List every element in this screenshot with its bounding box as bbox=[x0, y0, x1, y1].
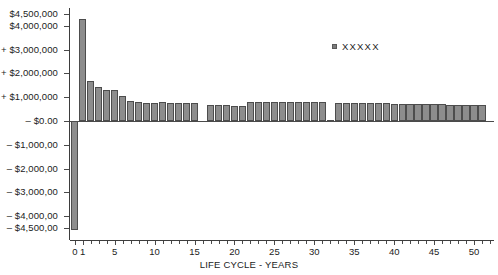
x-axis-tick-label: 25 bbox=[269, 246, 280, 257]
bar bbox=[279, 102, 286, 121]
bar bbox=[375, 103, 382, 121]
x-axis-tick-label: 15 bbox=[189, 246, 200, 257]
x-axis-tick-label: 5 bbox=[112, 246, 117, 257]
bar bbox=[215, 105, 222, 121]
bar bbox=[367, 103, 374, 121]
x-axis-tick-mark bbox=[171, 241, 172, 244]
bar bbox=[359, 103, 366, 121]
bar bbox=[71, 121, 78, 230]
x-axis-tick-label: 0 bbox=[72, 246, 77, 257]
x-axis-tick-mark bbox=[99, 241, 100, 244]
bar bbox=[343, 103, 350, 121]
bar bbox=[239, 106, 246, 121]
bar bbox=[287, 102, 294, 121]
bar bbox=[311, 102, 318, 121]
x-axis-tick-mark bbox=[362, 241, 363, 244]
zero-baseline bbox=[70, 121, 494, 122]
bar bbox=[462, 105, 469, 121]
x-axis-tick-mark bbox=[242, 241, 243, 244]
y-axis-tick-label: – $4,500,00 bbox=[7, 223, 58, 233]
x-axis-tick-mark bbox=[458, 241, 459, 244]
bar bbox=[111, 90, 118, 121]
x-axis-tick-mark bbox=[115, 241, 116, 245]
x-axis-tick-mark bbox=[426, 241, 427, 244]
x-axis-tick-mark bbox=[354, 241, 355, 245]
x-axis-tick-mark bbox=[370, 241, 371, 244]
x-axis-ticks bbox=[70, 241, 494, 245]
bar bbox=[95, 87, 102, 122]
x-axis-tick-mark bbox=[155, 241, 156, 245]
bar bbox=[223, 105, 230, 121]
bar bbox=[119, 96, 126, 121]
x-axis-tick-mark bbox=[322, 241, 323, 244]
bar bbox=[207, 105, 214, 121]
bar bbox=[127, 101, 134, 121]
x-axis-tick-mark bbox=[290, 241, 291, 244]
x-axis-tick-mark bbox=[219, 241, 220, 244]
x-axis-tick-label: 1 bbox=[80, 246, 85, 257]
x-axis-tick-mark bbox=[282, 241, 283, 244]
x-axis-tick-label: 20 bbox=[229, 246, 240, 257]
y-axis-tick-label: + $1,000,000 bbox=[1, 92, 58, 102]
y-axis-tick-label: – $3,000,00 bbox=[7, 187, 58, 197]
x-axis-tick-mark bbox=[434, 241, 435, 245]
bar bbox=[271, 102, 278, 121]
bar bbox=[263, 102, 270, 121]
y-axis-tick-label: – $4,000,00 bbox=[7, 211, 58, 221]
bar bbox=[191, 103, 198, 121]
bar bbox=[135, 102, 142, 121]
y-axis-tick-label: – $2,000,00 bbox=[7, 164, 58, 174]
bar bbox=[231, 106, 238, 121]
x-axis-tick-mark bbox=[386, 241, 387, 244]
bar bbox=[87, 81, 94, 121]
bar bbox=[414, 104, 421, 121]
x-axis-tick-mark bbox=[490, 241, 491, 244]
x-axis-tick-mark bbox=[203, 241, 204, 244]
bar bbox=[383, 103, 390, 121]
x-axis-tick-mark bbox=[306, 241, 307, 244]
x-axis-tick-mark bbox=[131, 241, 132, 244]
bar bbox=[79, 19, 86, 121]
x-axis-tick-mark bbox=[139, 241, 140, 244]
legend-label: XXXXX bbox=[342, 41, 380, 52]
bar bbox=[319, 102, 326, 121]
x-axis-tick-label: 30 bbox=[309, 246, 320, 257]
x-axis-tick-mark bbox=[466, 241, 467, 244]
bar bbox=[470, 105, 477, 121]
x-axis-tick-mark bbox=[418, 241, 419, 244]
bar bbox=[255, 102, 262, 121]
x-axis-tick-mark bbox=[195, 241, 196, 245]
x-axis-tick-mark bbox=[330, 241, 331, 244]
legend-swatch-icon bbox=[332, 44, 337, 49]
x-axis-tick-mark bbox=[314, 241, 315, 245]
x-axis-tick-mark bbox=[234, 241, 235, 245]
bar bbox=[159, 102, 166, 121]
x-axis-tick-mark bbox=[123, 241, 124, 244]
x-axis-tick-mark bbox=[147, 241, 148, 244]
x-axis-tick-mark bbox=[402, 241, 403, 244]
bar bbox=[143, 103, 150, 121]
bar bbox=[167, 103, 174, 121]
x-axis-tick-mark bbox=[298, 241, 299, 244]
x-axis-title: LIFE CYCLE - YEARS bbox=[0, 259, 498, 270]
plot-area bbox=[70, 8, 494, 240]
x-axis-tick-mark bbox=[442, 241, 443, 244]
y-axis-tick-label: $4,000,000 bbox=[9, 21, 58, 31]
bar bbox=[438, 104, 445, 121]
x-axis-tick-mark bbox=[179, 241, 180, 244]
x-axis-tick-mark bbox=[410, 241, 411, 244]
x-axis-tick-mark bbox=[482, 241, 483, 244]
y-axis-tick-label: $4,500,000 bbox=[9, 9, 58, 19]
y-axis-tick-label: – $1,000,00 bbox=[7, 140, 58, 150]
bar bbox=[327, 120, 334, 122]
x-axis-tick-mark bbox=[274, 241, 275, 245]
bar bbox=[351, 103, 358, 121]
x-axis-tick-mark bbox=[394, 241, 395, 245]
bar bbox=[247, 102, 254, 122]
x-axis-tick-mark bbox=[266, 241, 267, 244]
x-axis-tick-label: 50 bbox=[469, 246, 480, 257]
chart-legend: XXXXX bbox=[332, 41, 380, 52]
x-axis-tick-label: 10 bbox=[149, 246, 160, 257]
x-axis-tick-mark bbox=[75, 241, 76, 245]
x-axis-tick-mark bbox=[91, 241, 92, 244]
